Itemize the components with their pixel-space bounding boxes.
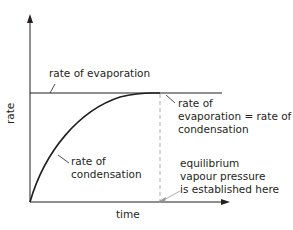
condensation-curve xyxy=(30,93,160,202)
x-axis-arrow-icon xyxy=(221,199,230,205)
condensation-leader xyxy=(58,155,69,163)
equilibrium-label-line1: equilibrium xyxy=(180,157,239,170)
equal-label-line1: rate of xyxy=(178,97,213,110)
equilibrium-label-line3: is established here xyxy=(180,183,279,196)
y-axis-label: rate xyxy=(4,103,17,124)
y-axis-arrow-icon xyxy=(27,14,33,23)
condensation-label-line2: condensation xyxy=(71,168,142,181)
condensation-label-line1: rate of xyxy=(71,155,106,168)
equal-label-line3: condensation xyxy=(178,123,249,136)
equilibrium-label-line2: vapour pressure xyxy=(180,170,265,183)
equal-label-line2: evaporation = rate of xyxy=(178,110,291,123)
evaporation-leader xyxy=(50,84,55,93)
x-axis-label: time xyxy=(116,208,140,221)
evaporation-label: rate of evaporation xyxy=(49,67,150,80)
equal-leader xyxy=(166,95,175,103)
